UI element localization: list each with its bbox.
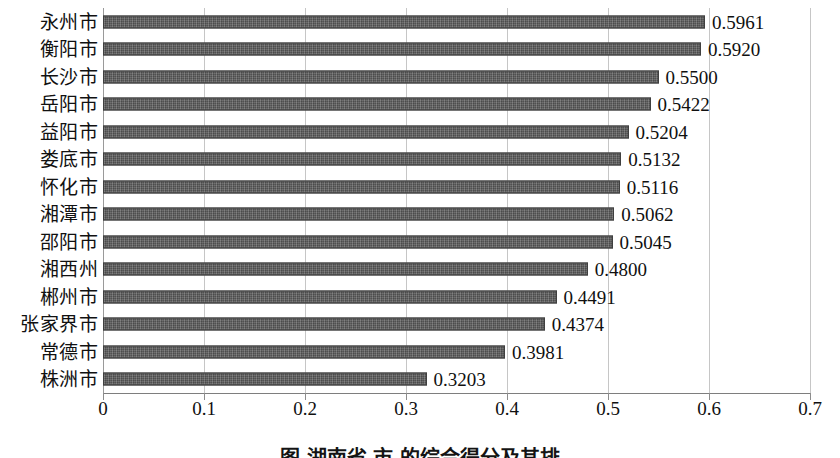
bar-track: 0.4374 bbox=[103, 311, 810, 339]
bar bbox=[103, 263, 588, 276]
bar-track: 0.3203 bbox=[103, 366, 810, 394]
bar-rows: 永州市0.5961衡阳市0.5920长沙市0.5500岳阳市0.5422益阳市0… bbox=[0, 8, 840, 393]
bar-value-label: 0.5132 bbox=[628, 150, 680, 169]
category-label: 株洲市 bbox=[40, 370, 99, 389]
category-label: 长沙市 bbox=[40, 67, 99, 86]
bar-row: 湘西州0.4800 bbox=[0, 256, 840, 284]
bar-row: 张家界市0.4374 bbox=[0, 311, 840, 339]
bar bbox=[103, 318, 545, 331]
bar-value-label: 0.5961 bbox=[712, 12, 764, 31]
bar-row: 怀化市0.5116 bbox=[0, 173, 840, 201]
bar-value-label: 0.5116 bbox=[627, 177, 679, 196]
x-tick-label: 0.3 bbox=[394, 399, 418, 420]
x-tick-label: 0.1 bbox=[192, 399, 216, 420]
bar-track: 0.5116 bbox=[103, 173, 810, 201]
bar bbox=[103, 125, 629, 138]
bar-row: 永州市0.5961 bbox=[0, 8, 840, 36]
category-label: 永州市 bbox=[40, 12, 99, 31]
bar bbox=[103, 70, 659, 83]
bar-value-label: 0.5920 bbox=[708, 40, 760, 59]
bar bbox=[103, 98, 651, 111]
bar-track: 0.5500 bbox=[103, 63, 810, 91]
bar-track: 0.5045 bbox=[103, 228, 810, 256]
bar-value-label: 0.4800 bbox=[595, 260, 647, 279]
category-label: 娄底市 bbox=[40, 150, 99, 169]
bar-value-label: 0.5204 bbox=[636, 122, 688, 141]
bar-track: 0.5132 bbox=[103, 146, 810, 174]
bar-track: 0.5920 bbox=[103, 36, 810, 64]
bar bbox=[103, 43, 701, 56]
bar bbox=[103, 180, 620, 193]
bar-value-label: 0.5500 bbox=[666, 67, 718, 86]
category-label: 怀化市 bbox=[40, 177, 99, 196]
bar-track: 0.5422 bbox=[103, 91, 810, 119]
bar-row: 常德市0.3981 bbox=[0, 338, 840, 366]
category-label: 岳阳市 bbox=[40, 95, 99, 114]
bar-track: 0.3981 bbox=[103, 338, 810, 366]
bar bbox=[103, 15, 705, 28]
bar bbox=[103, 235, 613, 248]
category-label: 益阳市 bbox=[40, 122, 99, 141]
bar-value-label: 0.4491 bbox=[564, 287, 616, 306]
x-tick-label: 0.7 bbox=[798, 399, 822, 420]
x-tick-label: 0 bbox=[98, 399, 108, 420]
x-tick-label: 0.6 bbox=[697, 399, 721, 420]
bar bbox=[103, 345, 505, 358]
bar-value-label: 0.5045 bbox=[620, 232, 672, 251]
bar-track: 0.4800 bbox=[103, 256, 810, 284]
bar-value-label: 0.3981 bbox=[512, 342, 564, 361]
bar bbox=[103, 373, 427, 386]
bar-row: 湘潭市0.5062 bbox=[0, 201, 840, 229]
bar-row: 邵阳市0.5045 bbox=[0, 228, 840, 256]
bar-row: 株洲市0.3203 bbox=[0, 366, 840, 394]
x-tick-label: 0.2 bbox=[293, 399, 317, 420]
bar-track: 0.4491 bbox=[103, 283, 810, 311]
bar-value-label: 0.5062 bbox=[621, 205, 673, 224]
bar-row: 衡阳市0.5920 bbox=[0, 36, 840, 64]
x-axis-tick-labels: 00.10.20.30.40.50.60.7 bbox=[103, 399, 810, 425]
category-label: 张家界市 bbox=[20, 315, 98, 334]
category-label: 湘潭市 bbox=[40, 205, 99, 224]
bar-track: 0.5961 bbox=[103, 8, 810, 36]
bar-row: 长沙市0.5500 bbox=[0, 63, 840, 91]
bar-row: 岳阳市0.5422 bbox=[0, 91, 840, 119]
x-tick-label: 0.4 bbox=[495, 399, 519, 420]
bar-chart: 永州市0.5961衡阳市0.5920长沙市0.5500岳阳市0.5422益阳市0… bbox=[0, 0, 840, 458]
bar-value-label: 0.5422 bbox=[658, 95, 710, 114]
bar-value-label: 0.4374 bbox=[552, 315, 604, 334]
bar bbox=[103, 208, 614, 221]
bar-track: 0.5062 bbox=[103, 201, 810, 229]
bar-row: 娄底市0.5132 bbox=[0, 146, 840, 174]
x-tick-label: 0.5 bbox=[596, 399, 620, 420]
bar bbox=[103, 290, 557, 303]
bar-track: 0.5204 bbox=[103, 118, 810, 146]
category-label: 郴州市 bbox=[40, 287, 99, 306]
bar bbox=[103, 153, 621, 166]
category-label: 湘西州 bbox=[40, 260, 99, 279]
bar-row: 益阳市0.5204 bbox=[0, 118, 840, 146]
bar-value-label: 0.3203 bbox=[434, 370, 486, 389]
bar-row: 郴州市0.4491 bbox=[0, 283, 840, 311]
category-label: 衡阳市 bbox=[40, 40, 99, 59]
category-label: 常德市 bbox=[40, 342, 99, 361]
figure-caption: 图 湖南省 市 的综合得分及其排 bbox=[0, 446, 840, 458]
category-label: 邵阳市 bbox=[40, 232, 99, 251]
